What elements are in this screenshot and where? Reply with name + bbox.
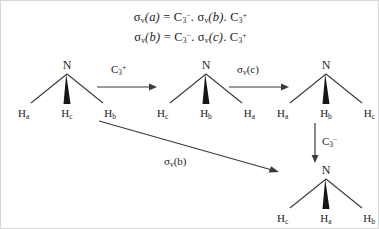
eq1-dot-2: . xyxy=(224,10,227,24)
eq2-equals: = xyxy=(164,30,171,44)
hydrogen-left-1: Ha xyxy=(18,107,29,119)
molecule-nh3-3: N Ha Hb Hc xyxy=(273,59,379,121)
arrow-label-sigma-v-b: σv(b) xyxy=(164,155,187,171)
eq1-equals: = xyxy=(163,10,170,24)
molecule-nh3-4: N Hc Ha Hb xyxy=(273,164,379,226)
hydrogen-labels-3: Ha Hb Hc xyxy=(273,107,379,121)
equation-block: σv(a) = C3−. σv(b). C3+ σv(b) = C3−. σv(… xyxy=(1,9,379,49)
eq1-arg: (a) xyxy=(145,10,160,24)
equation-line-2: σv(b) = C3−. σv(c). C3+ xyxy=(1,29,379,49)
hydrogen-right-3: Hc xyxy=(364,107,375,119)
arrow-glyph-4 xyxy=(97,117,287,179)
eq2-dot-2: . xyxy=(223,30,226,44)
wedge-bond-4 xyxy=(323,179,330,209)
hydrogen-middle-3: Hb xyxy=(320,107,332,119)
equation-line-1: σv(a) = C3−. σv(b). C3+ xyxy=(1,9,379,29)
eq2-term1-sym: C xyxy=(174,30,183,44)
figure-canvas: σv(a) = C3−. σv(b). C3+ σv(b) = C3−. σv(… xyxy=(0,0,379,229)
hydrogen-labels-4: Hc Ha Hb xyxy=(273,212,379,226)
arrow-glyph-3 xyxy=(312,123,338,165)
wedge-bond-3 xyxy=(323,74,330,104)
eq1-term2-arg: (b) xyxy=(208,10,223,24)
eq2-dot-1: . xyxy=(191,30,194,44)
eq2-term2-arg: (c) xyxy=(209,30,223,44)
eq1-dot-1: . xyxy=(191,10,194,24)
eq1-sigma: σ xyxy=(134,10,141,24)
eq1-term3-sup: + xyxy=(243,11,247,20)
hydrogen-middle-1: Hc xyxy=(61,107,72,119)
hydrogen-left-4: Hc xyxy=(277,212,288,224)
wedge-bond-2 xyxy=(203,74,210,104)
hydrogen-right-4: Hb xyxy=(363,212,375,224)
eq1-term3-sym: C xyxy=(230,10,239,24)
hydrogen-middle-4: Ha xyxy=(320,212,331,224)
arrow-glyph-1 xyxy=(97,63,159,97)
wedge-bond-1 xyxy=(64,74,71,104)
eq2-term2-sigma: σ xyxy=(198,30,205,44)
eq2-arg: (b) xyxy=(145,30,160,44)
eq2-term3-sup: + xyxy=(242,31,246,40)
